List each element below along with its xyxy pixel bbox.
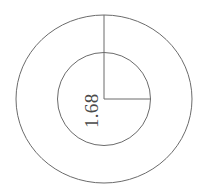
dimension-label: 1.68 xyxy=(81,94,102,128)
technical-drawing-canvas: 1.68 xyxy=(0,0,205,191)
drawing-svg: 1.68 xyxy=(0,0,205,191)
